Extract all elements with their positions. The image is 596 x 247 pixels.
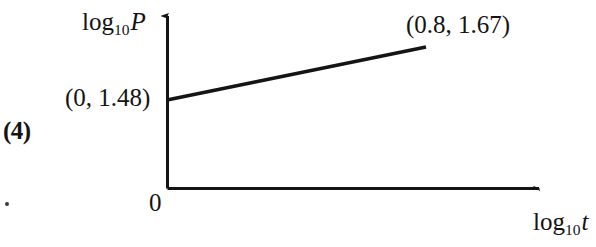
origin-tick-label: 0 bbox=[149, 190, 162, 215]
margin-question-number: (4) bbox=[3, 118, 31, 143]
point-label-endpoint: (0.8, 1.67) bbox=[406, 12, 510, 37]
point-label-intercept: (0, 1.48) bbox=[65, 85, 150, 110]
margin-speck bbox=[5, 202, 9, 206]
x-axis-label-variable: t bbox=[580, 208, 588, 235]
y-axis-label-variable: P bbox=[129, 8, 145, 35]
y-axis-label-base: 10 bbox=[114, 21, 130, 38]
x-axis-label: log10t bbox=[533, 209, 588, 237]
y-axis-label: log10P bbox=[82, 9, 146, 37]
y-axis-label-log: log bbox=[82, 8, 114, 35]
x-axis-label-base: 10 bbox=[565, 221, 581, 238]
x-axis-label-log: log bbox=[533, 208, 565, 235]
data-line bbox=[167, 47, 426, 100]
figure-canvas: (4) log10P log10t 0 (0, 1.48) (0.8, 1.67… bbox=[0, 0, 596, 247]
